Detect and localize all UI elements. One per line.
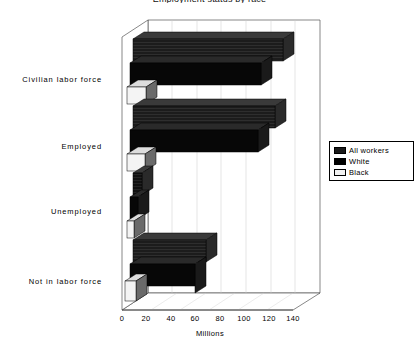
legend-item-black: Black [334, 167, 410, 178]
legend-label-black: Black [349, 168, 369, 177]
x-tick-0: 0 [112, 314, 132, 323]
chart-root: Employment status by race [0, 0, 419, 348]
x-tick-20: 20 [136, 314, 156, 323]
legend-item-all-workers: All workers [334, 145, 410, 156]
x-axis-title: Millions [160, 329, 260, 338]
chart-floor [122, 293, 320, 310]
category-label-not-in-labor-force: Not in labor force [2, 277, 102, 286]
x-tick-120: 120 [259, 314, 279, 323]
category-label-unemployed: Unemployed [2, 207, 102, 216]
chart-legend: All workers White Black [329, 141, 414, 181]
legend-label-white: White [349, 157, 370, 166]
x-tick-100: 100 [234, 314, 254, 323]
x-tick-60: 60 [185, 314, 205, 323]
x-tick-140: 140 [283, 314, 303, 323]
all-workers-swatch [334, 147, 346, 154]
legend-label-all-workers: All workers [349, 146, 389, 155]
category-label-employed: Employed [2, 142, 102, 151]
black-swatch [334, 169, 346, 176]
legend-item-white: White [334, 156, 410, 167]
category-label-civilian-labor-force: Civilian labor force [2, 75, 102, 84]
x-tick-40: 40 [161, 314, 181, 323]
x-tick-80: 80 [210, 314, 230, 323]
white-swatch [334, 158, 346, 165]
